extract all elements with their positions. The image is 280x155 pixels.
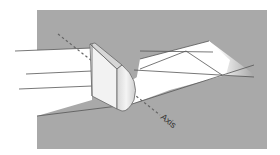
lens-diagram: Axis bbox=[0, 0, 280, 155]
incoming-beam-left bbox=[15, 50, 37, 116]
